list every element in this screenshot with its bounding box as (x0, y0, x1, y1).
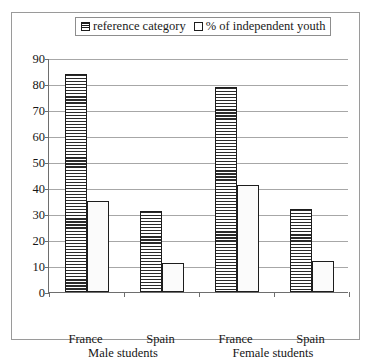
x-axis-category-label: Spain (273, 333, 348, 346)
legend-label-independent-youth: % of independent youth (206, 19, 326, 33)
x-axis-category-label: France (48, 333, 123, 346)
y-axis-tick-label: 70 (5, 105, 45, 117)
y-axis-tick (45, 137, 49, 138)
x-axis-tick (199, 292, 200, 297)
gridline (49, 111, 348, 112)
bar-dotted-3 (312, 261, 334, 292)
x-axis-category-label: Spain (123, 333, 198, 346)
bar-dotted-2 (237, 185, 259, 292)
y-axis-tick-label: 30 (5, 209, 45, 221)
legend-label-reference-category: reference category (93, 19, 186, 33)
y-axis-tick-label: 60 (5, 131, 45, 143)
y-axis-tick-label: 0 (5, 287, 45, 299)
x-axis-group-label: Female students (198, 347, 348, 360)
x-axis-tick (49, 292, 50, 297)
bar-horizontal-hatch-1 (140, 211, 162, 292)
y-axis-tick (45, 59, 49, 60)
y-axis-tick-label: 50 (5, 157, 45, 169)
y-axis-tick (45, 163, 49, 164)
gridline (49, 59, 348, 60)
chart-frame: reference category % of independent yout… (11, 12, 360, 340)
y-axis-tick-label: 80 (5, 79, 45, 91)
y-axis-tick (45, 85, 49, 86)
y-axis-tick (45, 267, 49, 268)
y-axis-tick (45, 215, 49, 216)
legend-item-independent-youth: % of independent youth (194, 19, 326, 33)
bar-horizontal-hatch-3 (290, 209, 312, 292)
y-axis-tick-label: 40 (5, 183, 45, 195)
y-axis-tick-label: 20 (5, 235, 45, 247)
x-axis-group-label: Male students (48, 347, 198, 360)
plot-box (48, 59, 348, 293)
chart-legend: reference category % of independent yout… (75, 17, 331, 36)
gridline (49, 163, 348, 164)
legend-swatch-hatch-icon (81, 22, 90, 31)
legend-item-reference-category: reference category (81, 19, 186, 33)
y-axis-tick (45, 111, 49, 112)
y-axis-tick-label: 10 (5, 261, 45, 273)
plot-area: 0102030405060708090FranceSpainFranceSpai… (48, 47, 348, 293)
y-axis-tick (45, 189, 49, 190)
y-axis-tick (45, 241, 49, 242)
y-axis-tick-label: 90 (5, 53, 45, 65)
gridline (49, 137, 348, 138)
x-axis-tick (124, 292, 125, 297)
gridline (49, 85, 348, 86)
x-axis-category-label: France (198, 333, 273, 346)
bar-dotted-1 (162, 263, 184, 292)
bar-dotted-0 (87, 201, 109, 292)
gridline (49, 189, 348, 190)
x-axis-tick (349, 292, 350, 297)
bar-horizontal-hatch-2 (215, 87, 237, 292)
legend-swatch-dot-icon (194, 22, 203, 31)
bar-horizontal-hatch-0 (65, 74, 87, 292)
x-axis-tick (274, 292, 275, 297)
